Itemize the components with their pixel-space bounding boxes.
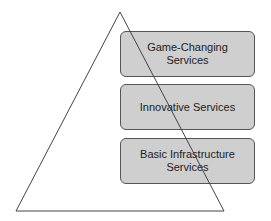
level-label: Innovative Services (140, 101, 235, 114)
level-label: Basic Infrastructure Services (140, 148, 235, 174)
level-basic-infrastructure-services: Basic Infrastructure Services (120, 138, 255, 184)
level-innovative-services: Innovative Services (120, 84, 255, 130)
level-game-changing-services: Game-Changing Services (120, 31, 255, 77)
level-label: Game-Changing Services (147, 41, 228, 67)
